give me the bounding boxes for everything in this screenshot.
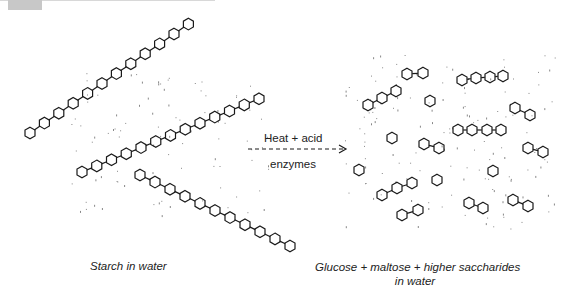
glucose-ring-icon bbox=[485, 71, 495, 83]
glucose-ring-icon bbox=[418, 67, 428, 79]
glucose-ring-icon bbox=[254, 93, 264, 105]
oligosaccharide-fragment bbox=[457, 70, 508, 86]
maltose-fragment bbox=[402, 67, 428, 80]
glucose-ring-icon bbox=[270, 233, 280, 245]
glucose-ring-icon bbox=[107, 154, 117, 166]
glucose-fragment bbox=[354, 164, 364, 176]
starch-chain-3 bbox=[135, 169, 295, 252]
caption-products: Glucose + maltose + higher saccharides i… bbox=[315, 260, 515, 288]
glucose-ring-icon bbox=[538, 146, 548, 158]
glucose-ring-icon bbox=[525, 109, 535, 121]
caption-products-line1: Glucose + maltose + higher saccharides bbox=[315, 260, 515, 274]
glucose-ring-icon bbox=[471, 72, 481, 84]
glucose-ring-icon bbox=[377, 92, 387, 104]
glucose-ring-icon bbox=[77, 166, 87, 178]
glucose-ring-icon bbox=[488, 165, 498, 177]
glucose-ring-icon bbox=[392, 182, 402, 194]
glucose-ring-icon bbox=[419, 138, 429, 150]
glucose-ring-icon bbox=[39, 117, 49, 129]
glucose-ring-icon bbox=[425, 95, 435, 107]
glucose-ring-icon bbox=[467, 124, 477, 136]
maltose-fragment bbox=[464, 197, 488, 214]
glucose-ring-icon bbox=[54, 107, 64, 119]
glucose-ring-icon bbox=[413, 204, 423, 216]
glucose-ring-icon bbox=[432, 174, 442, 186]
glucose-ring-icon bbox=[166, 130, 176, 142]
glucose-ring-icon bbox=[255, 226, 265, 238]
glucose-ring-icon bbox=[510, 102, 520, 114]
glucose-ring-icon bbox=[453, 124, 463, 136]
glucose-ring-icon bbox=[434, 142, 444, 154]
glucose-ring-icon bbox=[496, 124, 506, 136]
glucose-ring-icon bbox=[239, 99, 249, 111]
glucose-ring-icon bbox=[151, 136, 161, 148]
glucose-fragment bbox=[432, 174, 442, 186]
glucose-ring-icon bbox=[135, 169, 145, 181]
glucose-ring-icon bbox=[97, 78, 107, 90]
arrow-label-below: enzymes bbox=[270, 158, 316, 170]
reaction-diagram bbox=[0, 0, 570, 294]
glucose-ring-icon bbox=[165, 183, 175, 195]
saccharide-fragments bbox=[354, 67, 548, 221]
maltose-fragment bbox=[508, 194, 533, 212]
caption-starch: Starch in water bbox=[90, 260, 167, 272]
glucose-ring-icon bbox=[482, 124, 492, 136]
maltose-fragment bbox=[523, 142, 548, 158]
maltose-fragment bbox=[397, 204, 423, 221]
glucose-ring-icon bbox=[387, 132, 397, 144]
oligosaccharide-fragment bbox=[377, 177, 417, 201]
glucose-ring-icon bbox=[210, 205, 220, 217]
glucose-ring-icon bbox=[140, 48, 150, 60]
glucose-ring-icon bbox=[240, 219, 250, 231]
glucose-ring-icon bbox=[402, 68, 412, 80]
glucose-ring-icon bbox=[508, 194, 518, 206]
glucose-ring-icon bbox=[150, 176, 160, 188]
glucose-ring-icon bbox=[121, 148, 131, 160]
glucose-ring-icon bbox=[210, 111, 220, 123]
starch-chains bbox=[25, 18, 295, 252]
glucose-ring-icon bbox=[523, 200, 533, 212]
maltose-fragment bbox=[510, 102, 535, 121]
glucose-ring-icon bbox=[111, 68, 121, 80]
glucose-ring-icon bbox=[457, 74, 467, 86]
maltose-fragment bbox=[419, 138, 444, 154]
glucose-ring-icon bbox=[183, 18, 193, 30]
oligosaccharide-fragment bbox=[453, 124, 506, 136]
oligosaccharide-fragment bbox=[363, 85, 401, 111]
glucose-fragment bbox=[488, 165, 498, 177]
glucose-ring-icon bbox=[180, 124, 190, 136]
starch-chain-2 bbox=[77, 93, 264, 178]
caption-products-line2: in water bbox=[315, 274, 515, 288]
glucose-ring-icon bbox=[136, 142, 146, 154]
glucose-ring-icon bbox=[92, 160, 102, 172]
glucose-ring-icon bbox=[363, 99, 373, 111]
glucose-ring-icon bbox=[195, 117, 205, 129]
glucose-ring-icon bbox=[391, 85, 401, 97]
glucose-ring-icon bbox=[498, 70, 508, 82]
reaction-arrow bbox=[248, 145, 346, 153]
glucose-ring-icon bbox=[407, 177, 417, 189]
glucose-ring-icon bbox=[354, 164, 364, 176]
glucose-fragment bbox=[387, 132, 397, 144]
glucose-ring-icon bbox=[478, 202, 488, 214]
glucose-ring-icon bbox=[464, 197, 474, 209]
glucose-ring-icon bbox=[225, 212, 235, 224]
glucose-ring-icon bbox=[155, 38, 165, 50]
arrow-label-above: Heat + acid bbox=[264, 132, 323, 144]
glucose-ring-icon bbox=[523, 142, 533, 154]
glucose-ring-icon bbox=[285, 240, 295, 252]
glucose-ring-icon bbox=[25, 127, 35, 139]
glucose-ring-icon bbox=[377, 189, 387, 201]
glucose-ring-icon bbox=[180, 191, 190, 203]
glucose-ring-icon bbox=[195, 198, 205, 210]
glucose-ring-icon bbox=[83, 88, 93, 100]
glucose-ring-icon bbox=[225, 105, 235, 117]
glucose-ring-icon bbox=[169, 28, 179, 40]
starch-chain-1 bbox=[25, 18, 193, 139]
glucose-ring-icon bbox=[126, 58, 136, 70]
glucose-ring-icon bbox=[397, 209, 407, 221]
glucose-fragment bbox=[425, 95, 435, 107]
glucose-ring-icon bbox=[68, 98, 78, 110]
